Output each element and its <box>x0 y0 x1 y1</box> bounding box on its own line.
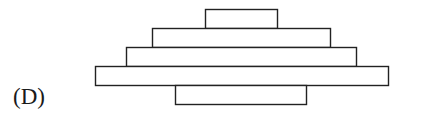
top-block <box>206 10 278 29</box>
second-block <box>153 29 331 48</box>
bottom-block <box>176 86 307 105</box>
third-block <box>127 48 357 67</box>
stacked-rectangles-figure <box>0 0 423 118</box>
widest-block <box>96 67 389 86</box>
